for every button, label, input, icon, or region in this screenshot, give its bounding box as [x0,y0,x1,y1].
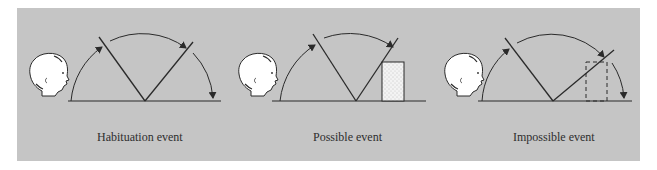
rotation-arrow-icon [612,63,624,98]
rotation-arrow-icon [71,47,102,101]
rotation-arrow-icon [517,34,604,57]
box-obstacle [382,62,404,101]
screen-right-position [145,42,193,101]
rotation-arrow-icon [110,34,186,48]
possible-event-label: Possible event [313,130,382,145]
rotation-arrow-icon [482,49,509,101]
infant-head-icon [445,53,484,96]
habituation-event-label: Habituation event [97,130,183,145]
possible-event-diagram [239,34,426,101]
rotation-arrow-icon [193,53,213,98]
habituation-event-diagram [30,34,221,101]
infant-head-icon [30,53,69,96]
rotation-arrow-icon [280,45,315,101]
screen-left-position [99,37,145,101]
impossible-event-diagram [445,34,632,101]
hidden-box-outline [586,62,607,101]
infant-head-icon [239,53,278,96]
screen-left-position [505,38,553,101]
screen-through-box-position [553,50,614,101]
rotation-arrow-icon [324,34,393,47]
impossible-event-label: Impossible event [513,130,595,145]
screen-left-position [313,34,356,101]
